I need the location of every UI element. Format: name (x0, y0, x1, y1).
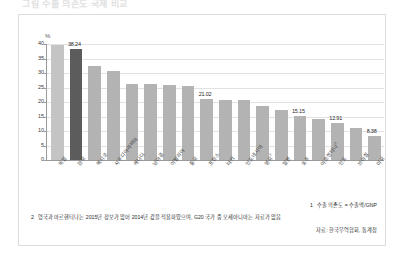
y-axis-tick-mark (44, 146, 47, 147)
bar-column (275, 44, 288, 160)
bar (200, 99, 213, 160)
bar-column (200, 44, 213, 160)
bar-column (312, 44, 325, 160)
y-axis-tick-mark (44, 117, 47, 118)
bar-value-label: 21.02 (199, 91, 212, 97)
bar-column (182, 44, 195, 160)
footnote-2-number: 2 (31, 214, 34, 220)
footnote-1-text: 수출 의존도 = 수출액/GNP (317, 202, 377, 208)
y-axis-tick-label: 40 (27, 41, 44, 47)
bar-column (350, 44, 363, 160)
figure-frame: % 0510152025303540 38.2421.0215.1512.918… (18, 14, 386, 246)
y-axis-tick-label: 20 (27, 99, 44, 105)
y-axis-tick-mark (44, 59, 47, 60)
bar-column (107, 44, 120, 160)
bar-column (144, 44, 157, 160)
bar-column (238, 44, 251, 160)
bar-column (368, 44, 381, 160)
y-axis-tick-label: 5 (27, 143, 44, 149)
y-axis-tick-label: 0 (27, 157, 44, 163)
bar (275, 110, 288, 160)
bar (88, 66, 101, 160)
footnote-1: 1수출 의존도 = 수출액/GNP (310, 201, 377, 208)
chart-plot-area: % 0510152025303540 38.2421.0215.1512.918… (19, 15, 387, 247)
bar (70, 49, 83, 160)
bar-column (51, 44, 64, 160)
bar (107, 71, 120, 160)
y-axis-tick-mark (44, 102, 47, 103)
y-axis-tick-label: 30 (27, 70, 44, 76)
bar-column (294, 44, 307, 160)
y-axis-tick-mark (44, 131, 47, 132)
bar (238, 100, 251, 160)
y-axis-tick-mark (44, 73, 47, 74)
bar (163, 85, 176, 160)
y-axis-tick-label: 10 (27, 128, 44, 134)
bar-column (88, 44, 101, 160)
x-axis-category-labels: 독일한국멕시코사우디아라비아캐나다남아공이탈리아중국프랑스터키인도네시아영국2일… (48, 162, 384, 204)
bar-value-label: 8.38 (367, 128, 377, 134)
footnote-1-number: 1 (310, 202, 313, 208)
bar-column (219, 44, 232, 160)
bar-column (70, 44, 83, 160)
y-axis-tick-mark (44, 44, 47, 45)
bar-value-label: 15.15 (292, 108, 305, 114)
y-axis-unit-label: % (45, 33, 50, 39)
bar-value-label: 38.24 (68, 41, 81, 47)
y-axis-tick-mark (44, 88, 47, 89)
y-axis-tick-mark (44, 160, 47, 161)
bar-value-label: 12.91 (329, 115, 342, 121)
source-text: 자료: 한국무역협회, 통계청 (316, 226, 377, 233)
bar (144, 84, 157, 160)
bar (51, 45, 64, 160)
page-title: 그림 수출 의존도 국제 비교 (22, 0, 128, 10)
footnote-2: 2영국과 아르헨티나는 2015년 정보가 없어 2014년 값을 적용하였으며… (31, 213, 281, 220)
y-axis-tick-label: 15 (27, 114, 44, 120)
bar (219, 100, 232, 160)
y-axis-tick-label: 25 (27, 85, 44, 91)
bar-column (163, 44, 176, 160)
footnote-2-text: 영국과 아르헨티나는 2015년 정보가 없어 2014년 값을 적용하였으며,… (38, 214, 281, 220)
y-axis-tick-label: 35 (27, 56, 44, 62)
